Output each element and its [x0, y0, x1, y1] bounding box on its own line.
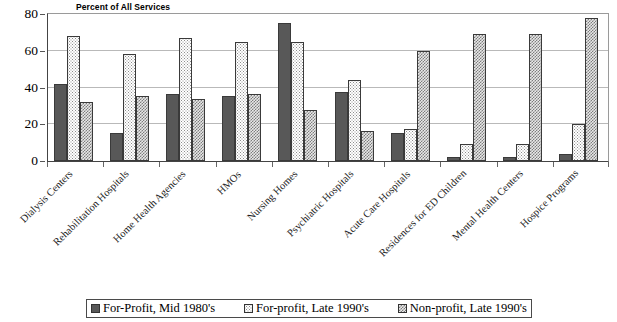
legend-item: For-Profit, Mid 1980's — [91, 301, 215, 316]
plot-area — [47, 13, 609, 162]
bar-0 — [559, 154, 572, 161]
y-axis-tick-label: 20 — [25, 118, 39, 132]
bar-2 — [136, 96, 149, 161]
bar-1 — [235, 42, 248, 161]
y-axis-tick-mark — [40, 124, 45, 125]
legend-item: Non-profit, Late 1990's — [398, 301, 527, 316]
chart-title: Percent of All Services — [76, 2, 170, 12]
y-axis: 020406080 — [0, 13, 45, 163]
y-axis-tick-label: 60 — [25, 44, 39, 58]
x-axis-category-labels: Dialysis CentersRehabilitation Hospitals… — [0, 162, 617, 272]
bar-group — [498, 14, 554, 161]
bar-group — [217, 14, 273, 161]
bar-2 — [361, 131, 374, 161]
bar-1 — [460, 144, 473, 161]
bar-group — [554, 14, 610, 161]
y-axis-tick-mark — [40, 88, 45, 89]
bar-1 — [67, 36, 80, 161]
bar-0 — [166, 94, 179, 161]
chart-legend: For-Profit, Mid 1980'sFor-profit, Late 1… — [86, 299, 532, 318]
legend-label: For-profit, Late 1990's — [256, 301, 369, 316]
legend-item: For-profit, Late 1990's — [244, 301, 369, 316]
x-axis-category-label: HMOs — [215, 168, 243, 196]
bar-1 — [516, 144, 529, 161]
bar-group — [104, 14, 160, 161]
legend-label: For-Profit, Mid 1980's — [103, 301, 215, 316]
bar-1 — [123, 54, 136, 161]
legend-swatch-icon — [91, 304, 100, 313]
bar-0 — [222, 96, 235, 161]
bar-2 — [585, 18, 598, 161]
y-axis-tick-mark — [40, 14, 45, 15]
bar-2 — [304, 110, 317, 161]
bar-1 — [291, 42, 304, 161]
bar-0 — [447, 157, 460, 161]
bar-1 — [572, 124, 585, 161]
bar-0 — [54, 84, 67, 161]
bar-group — [48, 14, 104, 161]
bar-2 — [248, 94, 261, 161]
bar-group — [160, 14, 216, 161]
bar-2 — [192, 99, 205, 161]
bar-2 — [417, 51, 430, 161]
bar-0 — [391, 133, 404, 161]
bar-0 — [335, 92, 348, 161]
bar-0 — [503, 157, 516, 161]
bar-1 — [404, 129, 417, 161]
bar-2 — [529, 34, 542, 161]
legend-swatch-icon — [244, 304, 253, 313]
bar-2 — [80, 102, 93, 161]
x-axis-category-label: Dialysis Centers — [18, 168, 75, 225]
bar-group — [273, 14, 329, 161]
y-axis-tick-mark — [40, 51, 45, 52]
bar-1 — [348, 80, 361, 161]
bar-group — [385, 14, 441, 161]
y-axis-tick-label: 80 — [25, 7, 39, 21]
bar-2 — [473, 34, 486, 161]
x-axis-category-label: Hospice Programs — [518, 168, 580, 230]
bar-group — [441, 14, 497, 161]
bar-0 — [110, 133, 123, 161]
y-axis-tick-label: 40 — [25, 81, 39, 95]
x-axis-category-label: Nursing Homes — [245, 168, 300, 223]
bar-group — [329, 14, 385, 161]
bar-1 — [179, 38, 192, 161]
legend-swatch-icon — [398, 304, 407, 313]
legend-label: Non-profit, Late 1990's — [410, 301, 527, 316]
bar-0 — [278, 23, 291, 161]
